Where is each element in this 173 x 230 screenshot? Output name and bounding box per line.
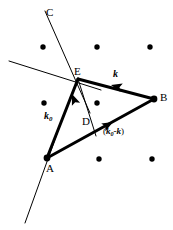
point-label-c: C (46, 7, 53, 18)
vertex-dot-a (44, 155, 51, 162)
lattice-dots-group (40, 44, 154, 161)
point-label-d: D (82, 116, 90, 127)
point-label-b: B (160, 92, 167, 103)
vertex-dot-b (151, 96, 158, 103)
segment-e-b (78, 79, 154, 99)
segment-a-b (47, 99, 154, 158)
lattice-dot-6 (149, 156, 154, 161)
vector-label-k: k (113, 69, 118, 79)
lattice-dot-0 (40, 44, 45, 49)
scattering-geometry-figure: CEBDA k0 k (k0-k) (0, 0, 173, 230)
lattice-dot-4 (94, 100, 99, 105)
line-upper-left-through-e (9, 61, 101, 90)
lattice-dot-5 (96, 156, 101, 161)
vector-triangle-group (47, 79, 154, 158)
point-label-a: A (46, 163, 54, 174)
point-label-e: E (74, 66, 81, 77)
lattice-dot-1 (94, 44, 99, 49)
vector-label-k0: k0 (44, 111, 52, 123)
lattice-dot-3 (41, 100, 46, 105)
lattice-dot-2 (147, 44, 152, 49)
vector-label-k0-minus-k: (k0-k) (103, 127, 124, 137)
line-c-through-e (45, 11, 90, 113)
